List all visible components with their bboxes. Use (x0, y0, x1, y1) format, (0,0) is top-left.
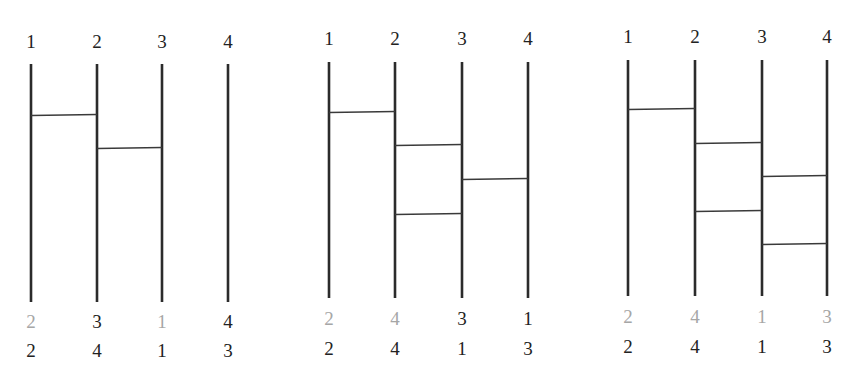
top-label-3: 3 (157, 31, 167, 52)
top-label-1: 1 (26, 31, 36, 52)
result-label-3: 3 (457, 308, 467, 329)
rung-3-4 (462, 179, 528, 180)
rung-2-3 (395, 214, 462, 215)
result-label-4: 3 (822, 306, 832, 327)
ladder-diagram: 123423142413123424312413123424132413 (0, 0, 859, 378)
rung-1-2 (31, 115, 97, 116)
target-label-2: 4 (690, 336, 700, 357)
rung-1-2 (628, 109, 695, 110)
target-label-2: 4 (390, 338, 400, 359)
panel-1: 123423142413 (26, 31, 233, 361)
target-label-4: 3 (822, 336, 832, 357)
target-label-4: 3 (223, 340, 233, 361)
target-label-2: 4 (92, 340, 102, 361)
target-label-3: 1 (157, 340, 167, 361)
top-label-2: 2 (390, 28, 400, 49)
top-label-2: 2 (92, 31, 102, 52)
result-label-4: 4 (223, 311, 233, 332)
result-label-3: 1 (157, 311, 167, 332)
target-label-3: 1 (457, 338, 467, 359)
rung-2-3 (97, 148, 162, 149)
result-label-2: 4 (390, 308, 400, 329)
target-label-1: 2 (324, 338, 334, 359)
top-label-4: 4 (523, 28, 533, 49)
result-label-1: 2 (324, 308, 334, 329)
top-label-4: 4 (822, 26, 832, 47)
result-label-1: 2 (26, 311, 36, 332)
panel-3: 123424132413 (623, 26, 832, 357)
rung-3-4 (762, 244, 827, 245)
target-label-1: 2 (623, 336, 633, 357)
top-label-3: 3 (457, 28, 467, 49)
target-label-4: 3 (523, 338, 533, 359)
rung-2-3 (695, 143, 762, 144)
top-label-1: 1 (324, 28, 334, 49)
top-label-2: 2 (690, 26, 700, 47)
panel-2: 123424312413 (324, 28, 533, 359)
result-label-3: 1 (757, 306, 767, 327)
top-label-3: 3 (757, 26, 767, 47)
rung-2-3 (395, 145, 462, 146)
top-label-4: 4 (223, 31, 233, 52)
target-label-1: 2 (26, 340, 36, 361)
result-label-4: 1 (523, 308, 533, 329)
result-label-2: 4 (690, 306, 700, 327)
target-label-3: 1 (757, 336, 767, 357)
rung-1-2 (329, 112, 395, 113)
result-label-1: 2 (623, 306, 633, 327)
top-label-1: 1 (623, 26, 633, 47)
rung-3-4 (762, 176, 827, 177)
rung-2-3 (695, 211, 762, 212)
result-label-2: 3 (92, 311, 102, 332)
